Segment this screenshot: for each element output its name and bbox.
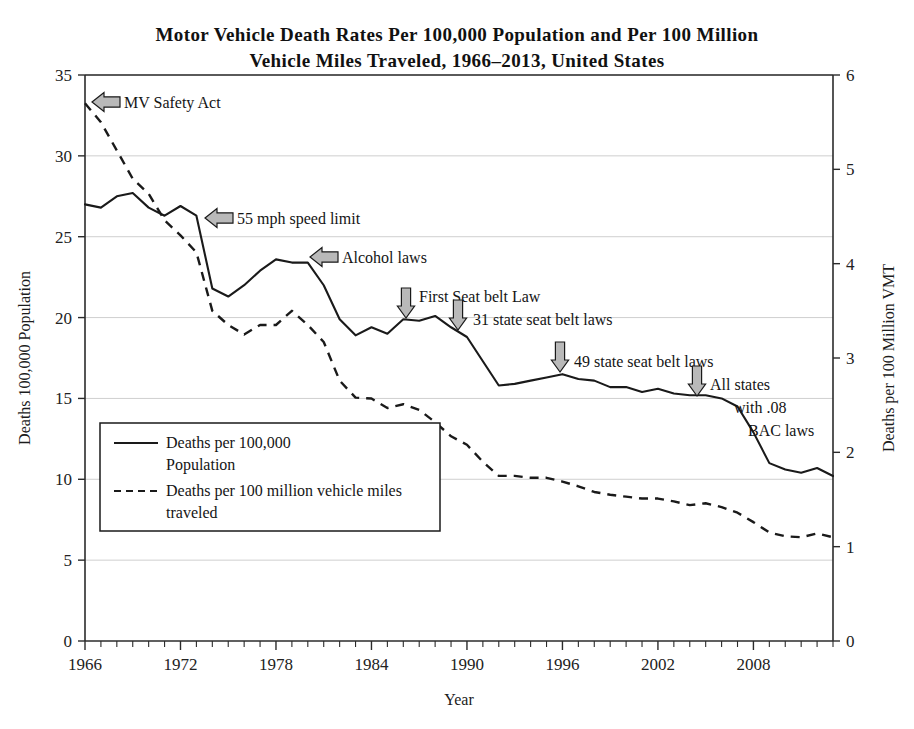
legend-label: Deaths per 100 million vehicle miles (166, 482, 402, 500)
annotation-arrow-left-icon (205, 209, 233, 228)
annotation-label-line-3: BAC laws (748, 422, 814, 439)
annotation-mv-safety-act: MV Safety Act (92, 93, 221, 113)
legend-label-line-2: Population (166, 456, 235, 474)
chart-plot-area: 0510152025303501234561966197219781984199… (0, 0, 914, 729)
y-tick-label-right: 6 (846, 66, 855, 85)
x-axis-title: Year (444, 691, 474, 708)
legend-label: Deaths per 100,000 (166, 434, 291, 452)
annotation-speed-limit-55: 55 mph speed limit (205, 209, 361, 229)
y-tick-label-right: 1 (846, 538, 855, 557)
chart-svg: 0510152025303501234561966197219781984199… (0, 0, 914, 729)
x-tick-label: 1966 (68, 655, 102, 674)
legend: Deaths per 100,000PopulationDeaths per 1… (100, 423, 440, 531)
annotation-49-state-seat-belt-laws: 49 state seat belt laws (551, 342, 713, 372)
legend-label-line-2: traveled (166, 504, 218, 521)
y-tick-label-left: 30 (55, 147, 72, 166)
x-tick-label: 2008 (736, 655, 770, 674)
x-tick-label: 1990 (450, 655, 484, 674)
axes (85, 75, 833, 641)
annotation-arrow-down-icon (397, 288, 414, 318)
annotation-label: MV Safety Act (124, 94, 221, 112)
y-tick-label-left: 15 (55, 389, 72, 408)
annotation-arrow-left-icon (310, 248, 338, 267)
y-tick-label-right: 3 (846, 349, 855, 368)
axis-ticks (78, 75, 840, 650)
annotation-all-states-bac: All stateswith .08BAC laws (688, 366, 814, 439)
x-tick-label: 1984 (354, 655, 389, 674)
y-tick-label-left: 10 (55, 470, 72, 489)
y-tick-label-left: 35 (55, 66, 72, 85)
annotation-label: Alcohol laws (342, 249, 427, 266)
x-tick-label: 1972 (163, 655, 197, 674)
y-tick-label-right: 5 (846, 160, 855, 179)
annotation-label: 55 mph speed limit (237, 210, 361, 228)
annotation-arrow-down-icon (688, 366, 705, 396)
y-tick-label-right: 0 (846, 632, 855, 651)
annotation-alcohol-laws: Alcohol laws (310, 248, 427, 267)
y-tick-label-left: 25 (55, 228, 72, 247)
annotations: MV Safety Act55 mph speed limitAlcohol l… (92, 93, 814, 440)
chart-page: Motor Vehicle Death Rates Per 100,000 Po… (0, 0, 914, 729)
annotation-label-line-2: with .08 (734, 399, 786, 416)
annotation-arrow-left-icon (92, 93, 120, 112)
axis-tick-labels: 0510152025303501234561966197219781984199… (55, 66, 855, 674)
annotation-label: All states (710, 376, 770, 393)
annotation-label: First Seat belt Law (419, 288, 541, 305)
y-tick-label-left: 20 (55, 309, 72, 328)
y-tick-label-right: 2 (846, 443, 855, 462)
y-axis-title-left: Deaths 100,000 Population (16, 271, 34, 445)
annotation-arrow-down-icon (551, 342, 568, 372)
x-tick-label: 1978 (259, 655, 293, 674)
y-tick-label-left: 0 (64, 632, 73, 651)
x-tick-label: 1996 (545, 655, 579, 674)
y-axis-title-right: Deaths per 100 Million VMT (880, 264, 898, 452)
y-tick-label-left: 5 (64, 551, 73, 570)
y-tick-label-right: 4 (846, 255, 855, 274)
x-tick-label: 2002 (641, 655, 675, 674)
annotation-label: 31 state seat belt laws (473, 311, 613, 328)
